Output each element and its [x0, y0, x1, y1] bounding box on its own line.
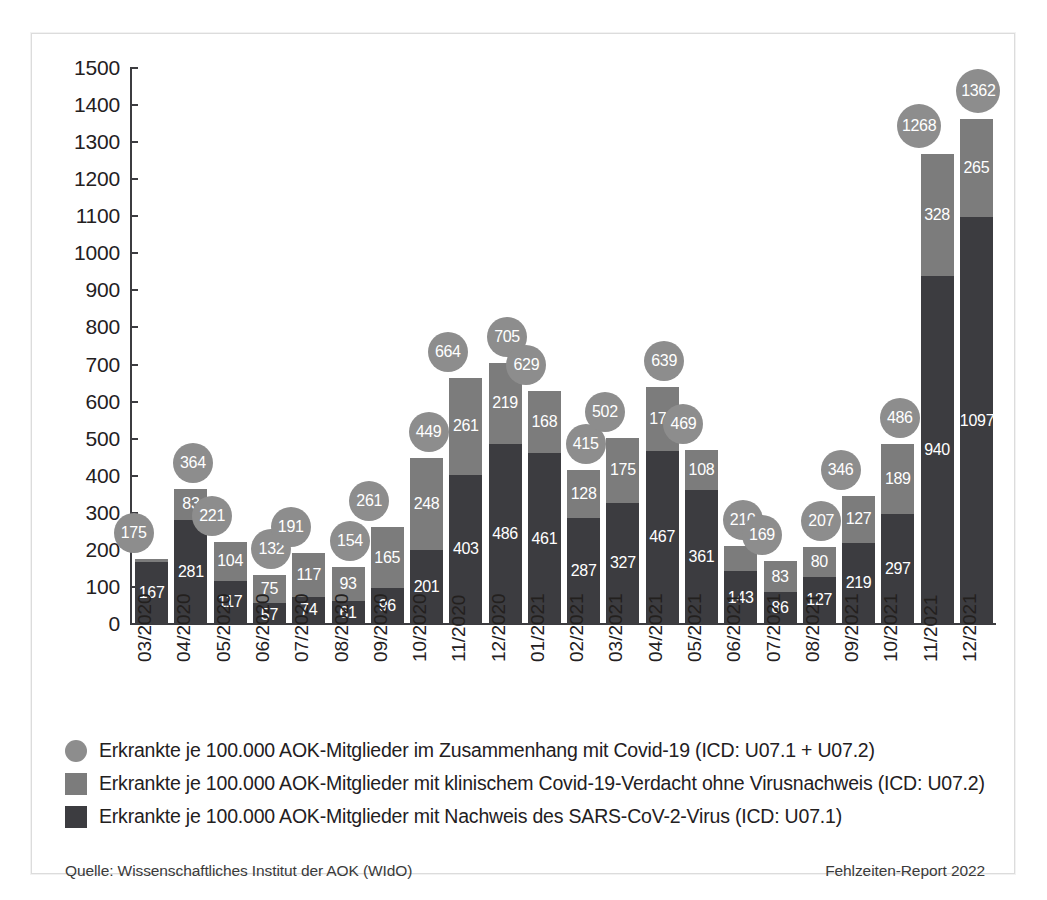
bar-segment-value: 940	[921, 442, 954, 458]
bar-segment-value: 327	[606, 555, 639, 571]
x-axis-tick-label: 02/2021	[567, 629, 586, 662]
bar-total-bubble[interactable]: 261	[349, 481, 389, 521]
bar-total-bubble[interactable]: 364	[173, 443, 213, 483]
bar-total-bubble[interactable]: 207	[801, 501, 841, 541]
y-axis-tick-label: 1500	[32, 57, 120, 78]
x-axis-tick-label: 04/2021	[646, 629, 665, 662]
bar-total-bubble[interactable]: 629	[506, 345, 546, 385]
x-axis-tick-label: 09/2020	[371, 629, 390, 662]
y-axis-tick-label: 1400	[32, 94, 120, 115]
bar-total-bubble[interactable]: 486	[880, 398, 920, 438]
x-axis-tick-label: 09/2021	[842, 629, 861, 662]
y-axis-tick-label: 1200	[32, 168, 120, 189]
chart-legend: Erkrankte je 100.000 AOK-Mitglieder im Z…	[65, 734, 995, 833]
bar-segment-confirmed[interactable]: 940	[921, 276, 954, 624]
bar-segment-suspected[interactable]: 165	[371, 527, 404, 588]
bar-segment-value: 219	[489, 395, 522, 411]
legend-item-label: Erkrankte je 100.000 AOK-Mitglieder mit …	[99, 805, 842, 828]
x-axis-tick-label: 12/2021	[960, 629, 979, 662]
legend-item: Erkrankte je 100.000 AOK-Mitglieder mit …	[65, 767, 995, 800]
bar-segment-suspected[interactable]: 104	[214, 542, 247, 581]
bar-column[interactable]: 261403	[449, 378, 482, 624]
bar-column[interactable]: 219486	[489, 363, 522, 624]
bar-segment-suspected[interactable]: 168	[528, 391, 561, 453]
x-axis-tick-label: 08/2020	[332, 629, 351, 662]
bar-segment-value: 80	[803, 554, 836, 570]
y-axis-tick-label: 800	[32, 316, 120, 337]
y-axis-tick-label: 300	[32, 502, 120, 523]
bar-segment-value: 127	[842, 511, 875, 527]
bar-segment-value: 104	[214, 553, 247, 569]
bar-segment-suspected[interactable]: 127	[842, 496, 875, 543]
bar-segment-value: 287	[567, 563, 600, 579]
y-axis-tick-label: 1300	[32, 131, 120, 152]
bar-segment-value: 175	[606, 462, 639, 478]
legend-item-label: Erkrankte je 100.000 AOK-Mitglieder im Z…	[99, 739, 875, 762]
bar-column[interactable]: 168461	[528, 391, 561, 624]
bar-segment-suspected[interactable]: 328	[921, 154, 954, 276]
x-axis-tick-label: 07/2020	[292, 629, 311, 662]
bar-segment-suspected[interactable]: 265	[960, 119, 993, 217]
bar-total-bubble[interactable]: 169	[742, 515, 782, 555]
bar-column[interactable]: 2651097	[960, 119, 993, 624]
bar-total-bubble[interactable]: 346	[821, 450, 861, 490]
bar-segment-value: 83	[764, 569, 797, 585]
y-axis-tick-label: 200	[32, 539, 120, 560]
x-axis-tick-label: 01/2021	[528, 629, 547, 662]
chart-footer: Quelle: Wissenschaftliches Institut der …	[65, 862, 985, 880]
bar-total-bubble[interactable]: 639	[644, 341, 684, 381]
bar-segment-value: 1097	[960, 413, 993, 429]
bar-segment-value: 361	[685, 549, 718, 565]
bar-total-bubble[interactable]: 221	[192, 496, 232, 536]
bar-segment-value: 93	[332, 576, 365, 592]
x-axis-tick-label: 04/2020	[174, 629, 193, 662]
legend-item-label: Erkrankte je 100.000 AOK-Mitglieder mit …	[99, 772, 985, 795]
legend-item: Erkrankte je 100.000 AOK-Mitglieder im Z…	[65, 734, 995, 767]
bar-segment-value: 108	[685, 462, 718, 478]
bar-segment-confirmed[interactable]: 1097	[960, 217, 993, 624]
bar-segment-value: 486	[489, 526, 522, 542]
bar-segment-suspected[interactable]: 261	[449, 378, 482, 475]
bar-segment-value: 261	[449, 418, 482, 434]
bar-total-bubble[interactable]: 154	[330, 521, 370, 561]
bar-total-bubble[interactable]: 664	[428, 332, 468, 372]
bar-segment-suspected[interactable]: 175	[606, 438, 639, 503]
bar-total-bubble[interactable]: 449	[409, 412, 449, 452]
bar-total-bubble[interactable]: 469	[663, 404, 703, 444]
bar-segment-value: 128	[567, 486, 600, 502]
x-axis-labels: 03/202004/202005/202006/202007/202008/20…	[132, 630, 996, 730]
x-axis-tick-label: 12/2020	[489, 629, 508, 662]
bar-segment-suspected[interactable]: 128	[567, 470, 600, 517]
bar-total-bubble[interactable]: 1268	[897, 104, 941, 148]
bar-segment-suspected[interactable]: 108	[685, 450, 718, 490]
bar-series-group: 8167175832813641041172217557132117741919…	[132, 68, 996, 624]
bar-total-bubble[interactable]: 175	[114, 513, 154, 553]
x-axis-tick-label: 03/2021	[606, 629, 625, 662]
x-axis-tick-label: 06/2020	[253, 629, 272, 662]
bar-segment-suspected[interactable]: 189	[881, 444, 914, 514]
legend-item: Erkrankte je 100.000 AOK-Mitglieder mit …	[65, 800, 995, 833]
y-axis-tick-label: 0	[32, 613, 120, 634]
bar-segment-value: 328	[921, 207, 954, 223]
bar-total-bubble[interactable]: 191	[271, 507, 311, 547]
bar-segment-suspected[interactable]: 248	[410, 458, 443, 550]
footer-source: Quelle: Wissenschaftliches Institut der …	[65, 862, 412, 880]
chart-figure: 0100200300400500600700800900100011001200…	[31, 33, 1015, 874]
bar-segment-value: 265	[960, 160, 993, 176]
y-axis-tick-label: 1100	[32, 205, 120, 226]
y-axis-tick-label: 1000	[32, 242, 120, 263]
bar-column[interactable]: 328940	[921, 154, 954, 624]
bar-segment-value: 297	[881, 561, 914, 577]
bar-segment-suspected[interactable]: 83	[764, 561, 797, 592]
y-axis-tick-label: 900	[32, 279, 120, 300]
bar-segment-value: 219	[842, 575, 875, 591]
bar-total-bubble[interactable]: 1362	[956, 69, 1000, 113]
x-axis-tick-label: 11/2021	[921, 629, 940, 662]
x-axis-tick-label: 07/2021	[764, 629, 783, 662]
bar-segment-suspected[interactable]: 117	[292, 553, 325, 596]
footer-report: Fehlzeiten-Report 2022	[825, 862, 985, 880]
bar-segment-suspected[interactable]: 80	[803, 547, 836, 577]
bar-total-bubble[interactable]: 502	[585, 392, 625, 432]
square-dark-marker	[65, 806, 87, 828]
square-light-marker	[65, 773, 87, 795]
